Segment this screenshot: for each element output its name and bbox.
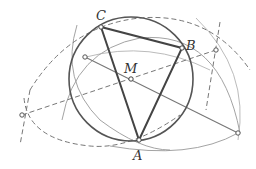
triangle-abc (101, 27, 182, 140)
construction-point-p1 (83, 55, 87, 59)
construction-point-p2 (20, 113, 24, 117)
label-a: A (132, 148, 142, 163)
geometry-figure: A B C M (0, 0, 256, 169)
construction-point-p3 (214, 48, 218, 52)
dashed-vertical-right (206, 22, 220, 110)
construction-arc-right (196, 18, 240, 140)
point-m-center (129, 77, 133, 81)
diagram-canvas: A B C M (0, 0, 256, 169)
point-c (99, 25, 103, 29)
point-a (137, 138, 141, 142)
dashed-arc-top (30, 17, 250, 90)
construction-arc-bottom (110, 133, 238, 151)
construction-point-p4 (236, 131, 240, 135)
label-m: M (123, 61, 138, 76)
label-c: C (96, 8, 106, 23)
label-b: B (185, 38, 196, 53)
dashed-arc-bottom (24, 98, 180, 146)
point-b (180, 46, 184, 50)
